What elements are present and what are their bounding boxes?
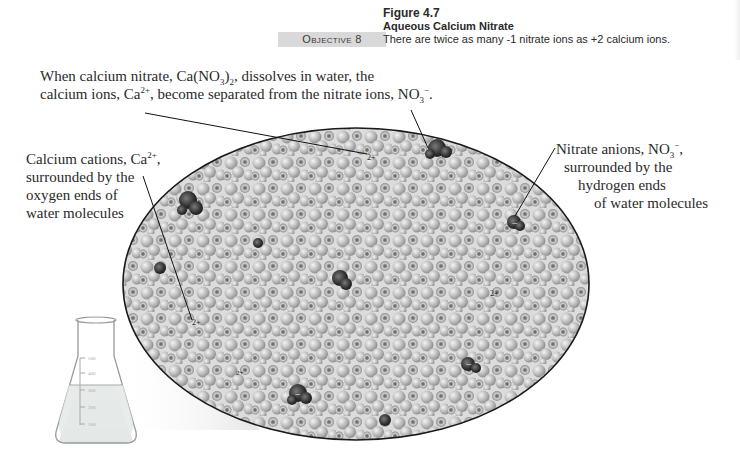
nitrate-charge-marker: − (512, 218, 518, 229)
label-line: Nitrate anions, NO3−, (556, 140, 708, 158)
magnified-solution-view: 2+ 2+ 2+ 2+ − − − (123, 128, 589, 440)
label-line: water molecules (26, 204, 161, 222)
calcium-charge-marker: 2+ (490, 289, 499, 298)
nitrate-ion (154, 262, 166, 274)
label-line: oxygen ends of (26, 186, 161, 204)
label-line: calcium ions, Ca2+, become separated fro… (40, 85, 433, 103)
calcium-charge-marker: 2+ (367, 153, 376, 162)
nitrate-ion (379, 414, 391, 426)
label-line: of water molecules (556, 194, 708, 212)
calcium-cations-label: Calcium cations, Ca2+, surrounded by the… (26, 150, 161, 222)
dissolution-description-label: When calcium nitrate, Ca(NO3)2, dissolve… (40, 67, 433, 103)
label-line: surrounded by the (556, 158, 708, 176)
nitrate-ion (253, 238, 263, 248)
label-line: surrounded by the (26, 168, 161, 186)
label-line: hydrogen ends (556, 176, 708, 194)
nitrate-charge-marker: − (466, 359, 472, 370)
calcium-charge-marker: 2+ (236, 369, 244, 377)
nitrate-anions-label: Nitrate anions, NO3−, surrounded by the … (556, 140, 708, 212)
flask-graduation: 300 (88, 388, 96, 393)
flask-graduation: 200 (88, 405, 96, 410)
label-line: Calcium cations, Ca2+, (26, 150, 161, 168)
calcium-charge-marker: 2+ (192, 318, 201, 327)
flask-graduation: 400 (88, 371, 96, 376)
nitrate-charge-marker: − (295, 389, 301, 400)
flask-graduation: 500 (88, 356, 96, 361)
label-line: When calcium nitrate, Ca(NO3)2, dissolve… (40, 67, 433, 85)
flask-graduation: 100 (88, 422, 96, 427)
